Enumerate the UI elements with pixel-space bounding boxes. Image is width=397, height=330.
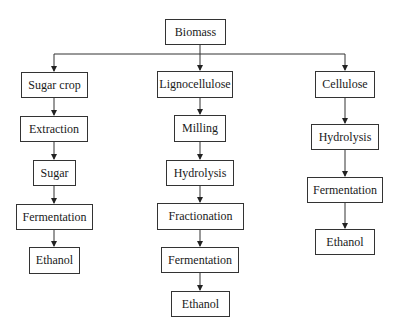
node-label: Sugar <box>41 166 69 181</box>
node-label: Hydrolysis <box>319 130 372 145</box>
node-biomass: Biomass <box>165 19 226 45</box>
node-label: Ethanol <box>182 297 219 312</box>
node-ethanol-cellulose: Ethanol <box>315 229 375 255</box>
node-milling: Milling <box>174 115 226 142</box>
node-ethanol-ligno: Ethanol <box>171 291 230 317</box>
node-cellulose: Cellulose <box>315 71 375 98</box>
node-label: Sugar crop <box>28 78 80 93</box>
node-label: Cellulose <box>322 77 367 92</box>
node-ethanol-sugar: Ethanol <box>29 247 80 274</box>
node-hydrolysis-cellulose: Hydrolysis <box>311 124 379 150</box>
node-label: Fractionation <box>169 209 233 224</box>
node-fermentation-cellulose: Fermentation <box>307 177 383 203</box>
node-label: Fermentation <box>313 183 377 198</box>
node-label: Fermentation <box>23 210 87 225</box>
node-lignocellulose: Lignocellulose <box>157 71 233 98</box>
node-label: Fermentation <box>168 253 232 268</box>
node-fermentation-ligno: Fermentation <box>161 247 239 273</box>
node-label: Ethanol <box>326 235 363 250</box>
node-extraction: Extraction <box>20 116 88 142</box>
node-fermentation-sugar: Fermentation <box>16 204 93 230</box>
node-sugar-crop: Sugar crop <box>21 72 88 98</box>
node-hydrolysis-ligno: Hydrolysis <box>166 160 234 186</box>
node-label: Biomass <box>175 25 216 40</box>
node-sugar: Sugar <box>33 160 76 186</box>
node-label: Lignocellulose <box>159 77 230 92</box>
node-label: Extraction <box>29 122 79 137</box>
node-label: Ethanol <box>36 253 73 268</box>
node-fractionation: Fractionation <box>157 203 244 230</box>
node-label: Milling <box>182 121 218 136</box>
node-label: Hydrolysis <box>174 166 227 181</box>
